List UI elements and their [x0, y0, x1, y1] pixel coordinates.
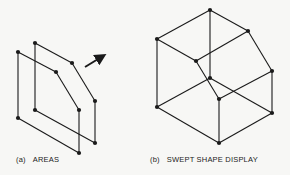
vertex-dot [33, 41, 37, 45]
area-edge [56, 72, 79, 110]
swept-edge [210, 10, 248, 31]
vertex-dot [208, 76, 212, 80]
vertex-dot [77, 151, 81, 155]
caption-tag: (a) [16, 155, 26, 164]
swept-edge [157, 39, 196, 61]
area-edge [18, 118, 79, 153]
swept-edge [219, 71, 272, 99]
swept-shape-figure [155, 8, 274, 145]
swept-edge [248, 31, 272, 71]
vertex-dot [217, 97, 221, 101]
vertex-dot [155, 105, 159, 109]
caption-swept-shape: (b)SWEPT SHAPE DISPLAY [150, 155, 258, 164]
area-edge [35, 43, 72, 63]
caption-areas: (a)AREAS [16, 155, 59, 164]
swept-edge [157, 10, 210, 39]
swept-edge [157, 78, 210, 107]
vertex-dot [208, 8, 212, 12]
area-edge [18, 52, 56, 72]
area-edge [35, 110, 95, 143]
swept-edge [219, 113, 272, 143]
caption-tag: (b) [150, 155, 160, 164]
vertex-dot [270, 69, 274, 73]
vertex-dot [77, 108, 81, 112]
vertex-dot [70, 61, 74, 65]
vertex-dot [54, 70, 58, 74]
vertex-dot [16, 50, 20, 54]
vertex-dot [93, 141, 97, 145]
caption-label: SWEPT SHAPE DISPLAY [167, 155, 258, 164]
vertex-dot [33, 108, 37, 112]
sweep-direction-arrow-icon [85, 56, 103, 67]
vertex-dot [93, 99, 97, 103]
areas-figure [16, 41, 103, 155]
swept-edge [196, 31, 248, 61]
area-edge [72, 63, 95, 101]
swept-edge [196, 61, 219, 99]
vertex-dot [16, 116, 20, 120]
caption-label: AREAS [33, 155, 59, 164]
vertex-dot [246, 29, 250, 33]
vertex-dot [155, 37, 159, 41]
vertex-dot [217, 141, 221, 145]
swept-edge [157, 107, 219, 143]
diagram-canvas [0, 0, 290, 175]
vertex-dot [194, 59, 198, 63]
vertex-dot [270, 111, 274, 115]
